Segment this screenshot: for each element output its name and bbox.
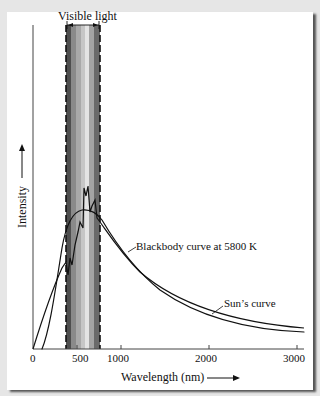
tick-2000: 2000 xyxy=(195,352,218,364)
tick-500: 500 xyxy=(72,352,89,364)
blackbody-curve-label: Blackbody curve at 5800 K xyxy=(136,240,257,252)
tick-1000: 1000 xyxy=(107,352,130,364)
x-tick-labels: 0 500 1000 2000 3000 xyxy=(30,352,306,364)
blackbody-leader-line xyxy=(128,247,136,252)
suns-curve-label: Sun’s curve xyxy=(224,297,276,309)
y-axis-label: Intensity xyxy=(15,186,29,228)
spectrum-chart: Visible light 0 500 1000 2000 3000 Wavel… xyxy=(0,0,320,396)
tick-3000: 3000 xyxy=(283,352,306,364)
x-ticks xyxy=(77,345,297,349)
tick-0: 0 xyxy=(30,352,36,364)
y-axis-arrow-icon xyxy=(19,144,25,178)
visible-light-band xyxy=(66,25,100,349)
x-axis-arrow-icon xyxy=(207,375,240,381)
visible-light-label: Visible light xyxy=(58,9,118,23)
x-axis-label: Wavelength (nm) xyxy=(121,370,204,384)
